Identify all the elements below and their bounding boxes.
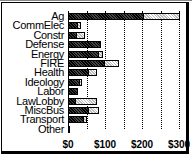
bar-segment-dark xyxy=(68,13,144,20)
plot-area xyxy=(68,11,188,129)
bar xyxy=(68,13,180,20)
bar-segment-light xyxy=(78,22,81,29)
bar xyxy=(68,69,97,76)
bar-segment-dark xyxy=(68,69,89,76)
bar-segment-light xyxy=(144,13,180,20)
bar xyxy=(68,107,99,114)
bar-segment-light xyxy=(76,98,97,105)
bar-segment-dark xyxy=(68,107,89,114)
bar-segment-light xyxy=(105,60,119,67)
bar-segment-dark xyxy=(68,79,80,86)
bar xyxy=(68,60,119,67)
bar-segment-dark xyxy=(68,88,78,95)
gridline xyxy=(161,11,162,129)
bar xyxy=(68,51,103,58)
bar-segment-dark xyxy=(68,98,76,105)
bar-segment-dark xyxy=(68,51,99,58)
bar xyxy=(68,79,82,86)
category-label: Other xyxy=(38,124,64,135)
bar-segment-dark xyxy=(68,60,105,67)
x-tick-label: $200 xyxy=(131,139,153,150)
bar-segment-light xyxy=(99,51,103,58)
bar-segment-dark xyxy=(68,116,84,123)
bar-segment-light xyxy=(84,116,87,123)
gridline xyxy=(179,11,180,129)
bar-segment-light xyxy=(89,69,97,76)
bar-segment-light xyxy=(80,79,82,86)
bar xyxy=(68,22,81,29)
bar-segment-dark xyxy=(68,32,77,39)
bar-segment-dark xyxy=(68,126,70,133)
chart-frame: AgCommElecConstrDefenseEnergyFIREHealthI… xyxy=(1,2,189,154)
x-tick-label: $0 xyxy=(62,139,73,150)
bar xyxy=(68,41,101,48)
bar xyxy=(68,88,78,95)
gridline xyxy=(124,11,125,129)
bar xyxy=(68,116,87,123)
x-tick-label: $100 xyxy=(94,139,116,150)
gridline xyxy=(142,11,143,129)
bar-segment-light xyxy=(77,32,85,39)
bar-segment-dark xyxy=(68,41,101,48)
x-tick-label: $300 xyxy=(168,139,190,150)
bar-segment-light xyxy=(89,107,99,114)
top-rule xyxy=(0,0,192,1)
bar xyxy=(68,98,97,105)
gridline xyxy=(105,11,106,129)
bar xyxy=(68,32,85,39)
bar xyxy=(68,126,70,133)
bar-segment-dark xyxy=(68,22,78,29)
